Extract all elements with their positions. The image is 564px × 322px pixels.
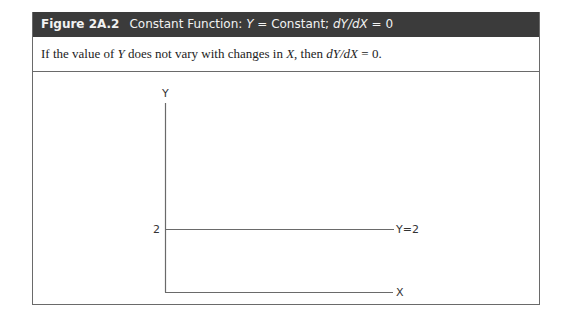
y-axis-label: Y	[161, 87, 169, 100]
y-tick-label: 2	[153, 223, 160, 236]
x-axis-label: X	[396, 286, 404, 299]
line-annotation: Y=2	[395, 223, 419, 236]
chart-plot: Y X 2 Y=2	[0, 0, 564, 322]
